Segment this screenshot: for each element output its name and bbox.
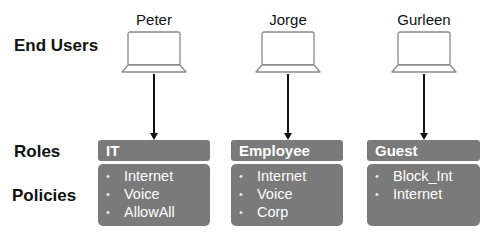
bullet-icon: • xyxy=(106,203,124,221)
policy-label: Corp xyxy=(257,203,288,221)
bullet-icon: • xyxy=(239,203,257,221)
policy-label: Internet xyxy=(393,185,442,203)
policy-item: •Internet xyxy=(375,185,480,203)
bullet-icon: • xyxy=(239,167,257,185)
arrow-down-icon xyxy=(423,74,425,134)
policy-box: •Internet •Voice •Corp xyxy=(231,164,343,226)
policy-box: •Block_Int •Internet xyxy=(367,164,480,226)
policy-item: •Voice xyxy=(239,185,343,203)
user-name: Gurleen xyxy=(374,11,474,28)
policy-label: Internet xyxy=(124,167,173,185)
user-name: Jorge xyxy=(238,11,338,28)
laptop-icon xyxy=(255,30,321,76)
policy-label: Voice xyxy=(257,185,292,203)
policy-item: •Block_Int xyxy=(375,167,480,185)
role-header: IT xyxy=(98,140,210,161)
row-label-end-users: End Users xyxy=(14,36,98,56)
bullet-icon: • xyxy=(106,167,124,185)
user-name: Peter xyxy=(104,11,204,28)
arrow-down-icon xyxy=(287,74,289,134)
row-label-roles: Roles xyxy=(14,142,60,162)
bullet-icon: • xyxy=(239,185,257,203)
policy-label: Voice xyxy=(124,185,159,203)
arrowhead-icon xyxy=(420,133,428,140)
arrowhead-icon xyxy=(150,133,158,140)
policy-label: Block_Int xyxy=(393,167,453,185)
arrowhead-icon xyxy=(284,133,292,140)
bullet-icon: • xyxy=(375,167,393,185)
policy-item: •Internet xyxy=(106,167,210,185)
arrow-down-icon xyxy=(153,74,155,134)
policy-label: AllowAll xyxy=(124,203,175,221)
laptop-icon xyxy=(121,30,187,76)
policy-label: Internet xyxy=(257,167,306,185)
role-header: Guest xyxy=(367,140,480,161)
laptop-icon xyxy=(391,30,457,76)
policy-item: •Voice xyxy=(106,185,210,203)
row-label-policies: Policies xyxy=(12,186,76,206)
bullet-icon: • xyxy=(375,185,393,203)
bullet-icon: • xyxy=(106,185,124,203)
policy-item: •Corp xyxy=(239,203,343,221)
policy-item: •AllowAll xyxy=(106,203,210,221)
policy-box: •Internet •Voice •AllowAll xyxy=(98,164,210,226)
role-header: Employee xyxy=(231,140,343,161)
policy-item: •Internet xyxy=(239,167,343,185)
